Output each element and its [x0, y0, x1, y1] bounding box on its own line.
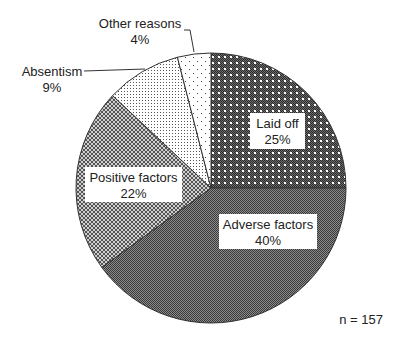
sample-size-note: n = 157: [339, 312, 383, 327]
label-other-name: Other reasons: [99, 16, 182, 31]
label-adverse-name: Adverse factors: [223, 217, 314, 232]
label-other-pct: 4%: [131, 32, 150, 47]
leader-line-other: [184, 30, 194, 52]
label-laid-off: Laid off 25%: [250, 113, 305, 149]
leader-line-absentism: [84, 69, 145, 71]
label-other-reasons: Other reasons 4%: [99, 16, 182, 47]
label-adverse-pct: 40%: [255, 233, 281, 248]
label-positive-name: Positive factors: [89, 170, 178, 185]
pie-chart: Laid off 25% Adverse factors 40% Positiv…: [0, 0, 405, 340]
label-laid-off-pct: 25%: [264, 132, 290, 147]
label-absentism: Absentism 9%: [22, 64, 83, 95]
label-positive-pct: 22%: [120, 186, 146, 201]
label-absentism-pct: 9%: [43, 80, 62, 95]
label-positive-factors: Positive factors 22%: [85, 167, 182, 202]
label-laid-off-name: Laid off: [256, 116, 299, 131]
label-adverse-factors: Adverse factors 40%: [219, 214, 317, 249]
label-absentism-name: Absentism: [22, 64, 83, 79]
